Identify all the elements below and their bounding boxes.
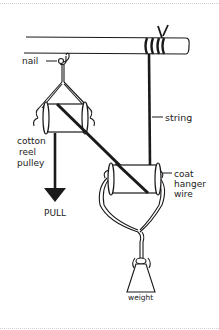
string-knot: [146, 25, 169, 54]
cotton-reel-label-1: cotton: [17, 136, 46, 146]
nail-label: nail: [22, 56, 38, 66]
string-vertical: [149, 54, 150, 166]
coat-hanger-label-1: coat: [174, 169, 194, 179]
diagram-frame: string nail: [0, 0, 219, 330]
pulley-diagram: string nail: [0, 0, 219, 330]
coat-hanger-label-2: hanger: [174, 179, 206, 189]
pull-arrow-icon: [44, 188, 66, 202]
nail: [59, 53, 70, 64]
string-label: string: [165, 112, 192, 123]
coat-hanger-label-3: wire: [174, 189, 193, 199]
pull-label: PULL: [44, 208, 66, 218]
cotton-reel-label-2: reel: [19, 147, 36, 157]
cotton-reel-label-3: pulley: [17, 158, 45, 168]
weight-label: weight: [128, 293, 153, 302]
